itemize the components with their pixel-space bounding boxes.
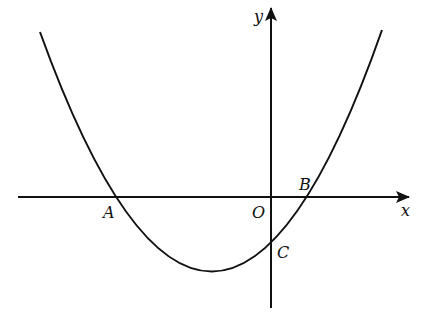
x-axis-label: x [401, 201, 410, 220]
point-c-label: C [277, 243, 289, 262]
parabola-curve [40, 30, 382, 272]
parabola-diagram: y x O A B C [0, 0, 425, 322]
y-axis-label: y [253, 7, 264, 26]
point-b-label: B [298, 175, 311, 194]
origin-label: O [252, 203, 265, 222]
point-a-label: A [101, 203, 115, 222]
